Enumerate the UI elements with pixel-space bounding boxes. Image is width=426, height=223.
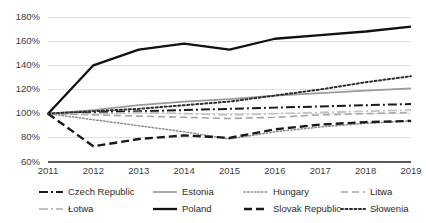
- y-tick-label: 180%: [0, 11, 40, 22]
- legend-swatch-solid: [152, 203, 178, 215]
- x-tick-label: 2014: [162, 165, 206, 176]
- legend-item-hungary[interactable]: Hungary: [243, 183, 309, 201]
- legend-swatch-dashed: [243, 203, 269, 215]
- x-tick-label: 2016: [253, 165, 297, 176]
- legend-item-litwa[interactable]: Litwa: [340, 183, 392, 201]
- legend-item-slovak-republic[interactable]: Slovak Republic: [243, 200, 341, 218]
- y-tick-label: 120%: [0, 83, 40, 94]
- legend-label: Słowenia: [370, 203, 409, 215]
- legend-row: Czech RepublicEstoniaHungaryLitwa: [0, 183, 417, 201]
- legend-label: Litwa: [370, 186, 392, 198]
- legend-swatch-dotted: [340, 203, 366, 215]
- chart-legend: Czech RepublicEstoniaHungaryLitwaŁotwaPo…: [0, 183, 417, 223]
- y-tick-label: 140%: [0, 59, 40, 70]
- legend-swatch-dashed: [340, 186, 366, 198]
- legend-item-estonia[interactable]: Estonia: [152, 183, 214, 201]
- legend-item-łotwa[interactable]: Łotwa: [38, 200, 93, 218]
- series-line-słowenia: [48, 76, 411, 113]
- x-tick-label: 2018: [344, 165, 388, 176]
- x-tick-label: 2019: [389, 165, 426, 176]
- legend-label: Slovak Republic: [273, 203, 341, 215]
- legend-item-słowenia[interactable]: Słowenia: [340, 200, 409, 218]
- x-tick-label: 2013: [117, 165, 161, 176]
- y-tick-label: 160%: [0, 35, 40, 46]
- y-tick-label: 100%: [0, 107, 40, 118]
- legend-swatch-solid: [152, 186, 178, 198]
- legend-item-poland[interactable]: Poland: [152, 200, 212, 218]
- legend-label: Czech Republic: [68, 186, 135, 198]
- series-line-hungary: [48, 114, 411, 139]
- legend-row: ŁotwaPolandSlovak RepublicSłowenia: [0, 200, 417, 218]
- legend-swatch-dash-dot: [38, 186, 64, 198]
- legend-label: Hungary: [273, 186, 309, 198]
- x-tick-label: 2011: [26, 165, 70, 176]
- legend-item-czech-republic[interactable]: Czech Republic: [38, 183, 135, 201]
- legend-label: Estonia: [182, 186, 214, 198]
- x-tick-label: 2012: [71, 165, 115, 176]
- legend-swatch-dotted: [243, 186, 269, 198]
- legend-swatch-dash-dot: [38, 203, 64, 215]
- legend-label: Poland: [182, 203, 212, 215]
- x-tick-label: 2015: [208, 165, 252, 176]
- y-tick-label: 80%: [0, 131, 40, 142]
- x-tick-label: 2017: [298, 165, 342, 176]
- legend-label: Łotwa: [68, 203, 93, 215]
